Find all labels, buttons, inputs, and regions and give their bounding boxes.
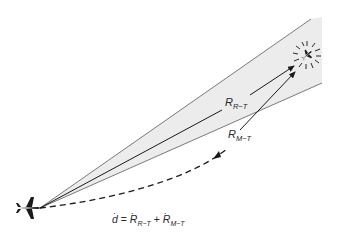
aircraft-icon	[16, 197, 41, 219]
bistatic-range-diagram: RR−T RM−T ·d = ·RR−T + ·RM−T	[0, 0, 339, 237]
label-range-missile-target: RM−T	[228, 129, 251, 143]
missile-trajectory-arrow	[213, 151, 221, 159]
radar-beam	[40, 17, 322, 208]
beam-lower-edge	[40, 83, 322, 208]
bistatic-range-rate-equation: ·d = ·RR−T + ·RM−T	[112, 214, 185, 227]
diagram-graphics	[0, 0, 339, 237]
beam-upper-edge	[40, 19, 311, 208]
label-range-radar-target: RR−T	[225, 97, 247, 111]
range-radar-target-line-1	[40, 110, 222, 208]
